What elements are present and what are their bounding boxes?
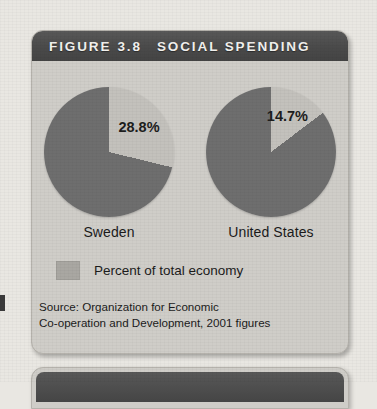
pie-block-sweden: 28.8% Sweden (43, 87, 175, 240)
pie-value-label-united-states: 14.7% (267, 108, 308, 124)
legend-label: Percent of total economy (94, 263, 243, 278)
legend-swatch (56, 261, 80, 280)
pie-chart-sweden (44, 87, 174, 217)
source-line-1: Source: Organization for Economic (39, 299, 338, 315)
figure-card: FIGURE 3.8 SOCIAL SPENDING 28.8% Sweden … (31, 30, 349, 354)
figure-header-prefix: FIGURE (49, 39, 111, 54)
pie-chart-united-states (206, 87, 336, 217)
figure-header-title: SOCIAL SPENDING (157, 39, 311, 54)
pie-chart-group: 28.8% Sweden 14.7% United States (32, 87, 348, 240)
figure-header-number: 3.8 (117, 39, 141, 54)
pie-value-label-sweden: 28.8% (118, 119, 159, 135)
next-figure-card (31, 367, 349, 409)
figure-header-bar: FIGURE 3.8 SOCIAL SPENDING (32, 31, 348, 61)
source-line-2: Co-operation and Development, 2001 figur… (39, 315, 338, 331)
pie-label-united-states: United States (205, 224, 337, 240)
chart-body: 28.8% Sweden 14.7% United States Percent… (32, 61, 348, 353)
source-note: Source: Organization for Economic Co-ope… (39, 299, 338, 332)
next-figure-header-bar (36, 372, 344, 402)
legend: Percent of total economy (56, 261, 243, 280)
pie-block-united-states: 14.7% United States (205, 87, 337, 240)
pie-label-sweden: Sweden (43, 224, 175, 240)
page-edge-mark (0, 295, 5, 311)
